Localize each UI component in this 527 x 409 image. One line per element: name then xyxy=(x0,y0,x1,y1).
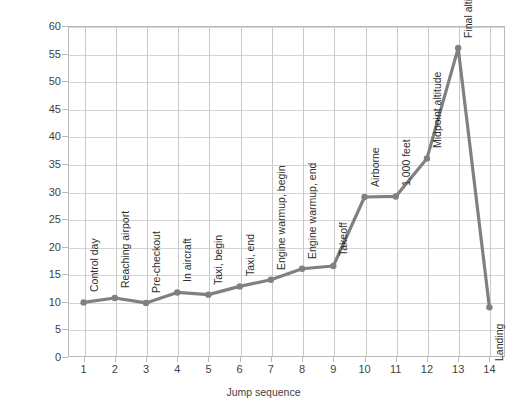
y-tick-mark xyxy=(62,329,68,330)
x-tick-mark xyxy=(271,357,272,362)
x-tick-label: 3 xyxy=(131,363,161,375)
x-tick-label: 10 xyxy=(350,363,380,375)
y-tick-label: 25 xyxy=(35,213,61,225)
gridline-vertical xyxy=(459,27,460,356)
gridline-vertical xyxy=(334,27,335,356)
x-tick-mark xyxy=(396,357,397,362)
y-tick-mark xyxy=(62,136,68,137)
x-tick-label: 5 xyxy=(193,363,223,375)
x-tick-label: 7 xyxy=(256,363,286,375)
gridline-vertical xyxy=(490,27,491,356)
y-tick-label: 40 xyxy=(35,130,61,142)
y-tick-mark xyxy=(62,164,68,165)
point-annotation: Control day xyxy=(88,239,100,293)
y-tick-label: 15 xyxy=(35,268,61,280)
y-tick-mark xyxy=(62,54,68,55)
point-annotation: Taxi, begin xyxy=(212,234,224,284)
x-tick-mark xyxy=(458,357,459,362)
y-tick-label: 55 xyxy=(35,48,61,60)
y-tick-label: 45 xyxy=(35,103,61,115)
y-tick-mark xyxy=(62,192,68,193)
y-tick-label: 10 xyxy=(35,296,61,308)
line-chart: Conductance in microohms 051015202530354… xyxy=(0,0,527,409)
point-annotation: Pre-checkout xyxy=(150,231,162,293)
x-tick-label: 11 xyxy=(381,363,411,375)
point-annotation: Engine warmup, end xyxy=(306,162,318,258)
y-tick-label: 0 xyxy=(35,351,61,363)
y-tick-mark xyxy=(62,81,68,82)
x-tick-mark xyxy=(177,357,178,362)
y-tick-mark xyxy=(62,302,68,303)
point-annotation: Final altitude xyxy=(462,0,474,38)
x-tick-mark xyxy=(365,357,366,362)
gridline-vertical xyxy=(428,27,429,356)
gridline-horizontal xyxy=(69,330,504,331)
x-tick-mark xyxy=(146,357,147,362)
gridline-vertical xyxy=(178,27,179,356)
x-tick-label: 6 xyxy=(225,363,255,375)
gridline-vertical xyxy=(116,27,117,356)
y-tick-mark xyxy=(62,274,68,275)
x-tick-label: 2 xyxy=(100,363,130,375)
gridline-vertical xyxy=(397,27,398,356)
y-tick-mark xyxy=(62,357,68,358)
point-annotation: In aircraft xyxy=(181,239,193,283)
y-tick-label: 35 xyxy=(35,158,61,170)
gridline-vertical xyxy=(85,27,86,356)
point-annotation: Landing xyxy=(493,324,505,361)
x-tick-label: 4 xyxy=(162,363,192,375)
y-tick-label: 50 xyxy=(35,75,61,87)
x-tick-mark xyxy=(333,357,334,362)
x-tick-mark xyxy=(302,357,303,362)
y-tick-mark xyxy=(62,26,68,27)
gridline-horizontal xyxy=(69,303,504,304)
gridline-vertical xyxy=(209,27,210,356)
x-tick-mark xyxy=(427,357,428,362)
y-tick-mark xyxy=(62,247,68,248)
gridline-vertical xyxy=(272,27,273,356)
y-tick-label: 5 xyxy=(35,323,61,335)
y-tick-mark xyxy=(62,109,68,110)
gridline-horizontal xyxy=(69,275,504,276)
point-annotation: Takeoff xyxy=(337,222,349,256)
point-annotation: Midpoint altitude xyxy=(431,72,443,148)
x-tick-mark xyxy=(84,357,85,362)
point-annotation: Engine warmup, begin xyxy=(275,165,287,269)
gridline-vertical xyxy=(303,27,304,356)
y-tick-label: 20 xyxy=(35,241,61,253)
x-tick-mark xyxy=(115,357,116,362)
x-tick-label: 1 xyxy=(69,363,99,375)
x-tick-mark xyxy=(208,357,209,362)
point-annotation: Airborne xyxy=(369,147,381,187)
y-tick-label: 60 xyxy=(35,20,61,32)
point-annotation: 1,000 feet xyxy=(400,140,412,187)
x-axis-title: Jump sequence xyxy=(0,386,527,398)
y-tick-label: 30 xyxy=(35,186,61,198)
x-tick-label: 13 xyxy=(443,363,473,375)
gridline-horizontal xyxy=(69,55,504,56)
point-annotation: Reaching airport xyxy=(119,211,131,288)
y-tick-mark xyxy=(62,219,68,220)
gridline-horizontal xyxy=(69,27,504,28)
x-tick-label: 12 xyxy=(412,363,442,375)
x-tick-mark xyxy=(489,357,490,362)
x-tick-label: 14 xyxy=(474,363,504,375)
gridline-vertical xyxy=(147,27,148,356)
x-tick-label: 8 xyxy=(287,363,317,375)
x-tick-mark xyxy=(240,357,241,362)
point-annotation: Taxi, end xyxy=(244,234,256,276)
x-tick-label: 9 xyxy=(318,363,348,375)
gridline-vertical xyxy=(241,27,242,356)
gridline-vertical xyxy=(366,27,367,356)
